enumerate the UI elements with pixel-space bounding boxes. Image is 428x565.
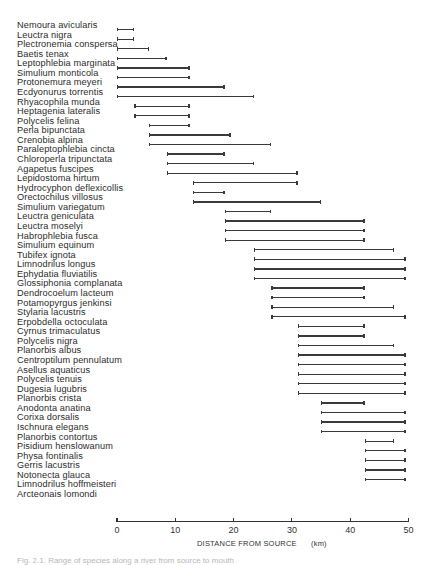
range-bar <box>225 240 365 241</box>
range-bar <box>298 383 406 384</box>
species-label: Centroptilum pennulatum <box>17 355 122 365</box>
species-label: Stylaria lacustris <box>17 307 86 317</box>
x-axis-line <box>117 521 409 522</box>
range-bar <box>271 307 393 308</box>
range-bar <box>117 58 167 59</box>
x-axis-title: DISTANCE FROM SOURCE (km) <box>197 539 327 548</box>
x-tick <box>175 518 176 522</box>
species-label: Polycelis felina <box>17 116 79 126</box>
range-bar <box>225 220 365 221</box>
range-bar <box>117 77 190 78</box>
range-bar <box>365 479 406 480</box>
x-tick-label: 50 <box>403 525 413 535</box>
species-label: Tubifex ignota <box>17 250 76 260</box>
range-bar <box>225 230 365 231</box>
range-bar <box>321 421 406 422</box>
species-label: Arcteonais lomondi <box>17 489 97 499</box>
species-label: Simulium equinum <box>17 240 94 250</box>
x-axis-unit: (km) <box>311 539 327 548</box>
species-label: Nemoura avicularis <box>17 20 97 30</box>
species-label: Rhyacophila munda <box>17 97 100 107</box>
species-label: Ischnura elegans <box>17 422 89 432</box>
range-bar <box>254 268 406 269</box>
range-bar <box>298 374 406 375</box>
species-label: Limnodrilus longus <box>17 259 95 269</box>
species-label: Chloroperla tripunctata <box>17 154 112 164</box>
species-label: Leuctra moselyi <box>17 221 83 231</box>
x-tick-label: 20 <box>229 525 239 535</box>
range-bar <box>149 144 271 145</box>
species-label: Asellus aquaticus <box>17 365 90 375</box>
range-bar <box>167 173 298 174</box>
species-label: Simulium variegatum <box>17 202 105 212</box>
species-label: Dugesia lugubris <box>17 384 87 394</box>
x-tick-label: 40 <box>345 525 355 535</box>
x-tick <box>116 518 117 522</box>
range-bar <box>134 115 189 116</box>
range-bar <box>271 287 364 288</box>
species-label: Corixa dorsalis <box>17 412 79 422</box>
species-label: Planorbis albus <box>17 345 81 355</box>
species-label: Crenobia alpina <box>17 135 83 145</box>
range-bar <box>365 450 406 451</box>
species-label: Limnodrilus hoffmeisteri <box>17 479 116 489</box>
species-label: Simulium monticola <box>17 68 98 78</box>
x-tick-label: 10 <box>170 525 180 535</box>
species-label: Polycelis nigra <box>17 336 78 346</box>
species-label: Pisidium henslowanum <box>17 441 113 451</box>
range-bar <box>271 297 364 298</box>
range-bar <box>298 354 406 355</box>
range-bar <box>254 278 406 279</box>
species-label: Polycelis tenuis <box>17 374 82 384</box>
range-bar <box>365 460 406 461</box>
species-label: Erpobdella octoculata <box>17 317 107 327</box>
species-label: Leptophlebia marginata <box>17 58 115 68</box>
x-tick-label: 0 <box>114 525 119 535</box>
range-bar <box>254 249 394 250</box>
range-bar <box>298 393 406 394</box>
range-bar <box>193 192 225 193</box>
species-label: Planorbis contortus <box>17 432 98 442</box>
range-bar <box>298 364 406 365</box>
species-label: Baetis tenax <box>17 49 69 59</box>
range-bar <box>134 106 189 107</box>
x-axis-label: DISTANCE FROM SOURCE <box>197 539 297 548</box>
x-tick <box>408 518 409 522</box>
range-bar <box>149 125 190 126</box>
x-tick <box>233 518 234 522</box>
species-label: Hydrocyphon deflexicollis <box>17 183 123 193</box>
species-label: Notonecta glauca <box>17 470 90 480</box>
species-label: Paraleptophlebia cincta <box>17 144 115 154</box>
range-bar <box>254 259 406 260</box>
species-label: Lepidostoma hirtum <box>17 173 100 183</box>
species-label: Physa fontinalis <box>17 451 83 461</box>
range-bar <box>149 134 231 135</box>
species-label: Habrophlebia fusca <box>17 231 98 241</box>
range-bar <box>117 86 225 87</box>
range-bar <box>298 326 365 327</box>
range-bar <box>298 335 365 336</box>
species-label: Anodonta anatina <box>17 403 91 413</box>
x-tick <box>291 518 292 522</box>
species-label: Orectochilus villosus <box>17 192 103 202</box>
range-bar <box>167 163 254 164</box>
range-bar <box>365 469 406 470</box>
species-label: Dendrocoelum lacteum <box>17 288 113 298</box>
species-label: Cyrnus trimaculatus <box>17 326 100 336</box>
species-label: Potamopyrgus jenkinsi <box>17 298 112 308</box>
range-bar <box>271 316 405 317</box>
species-label: Agapetus fuscipes <box>17 164 94 174</box>
range-bar <box>298 345 394 346</box>
species-label: Protonemura meyeri <box>17 77 102 87</box>
range-bar <box>167 153 225 154</box>
species-label: Glossiphonia complanata <box>17 278 122 288</box>
species-label: Ecdyonurus torrentis <box>17 87 103 97</box>
figure-caption: Fig. 2.1. Range of species along a river… <box>17 556 234 565</box>
range-bar <box>321 412 406 413</box>
species-label: Leuctra geniculata <box>17 211 94 221</box>
species-label: Leuctra nigra <box>17 30 72 40</box>
species-label: Gerris lacustris <box>17 460 80 470</box>
x-tick-label: 30 <box>287 525 297 535</box>
species-label: Planorbis crista <box>17 393 81 403</box>
